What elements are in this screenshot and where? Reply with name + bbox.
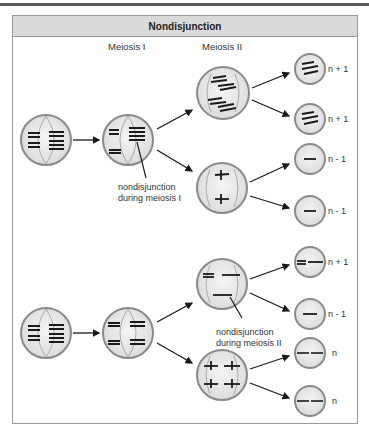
arrow xyxy=(250,293,289,311)
arrow xyxy=(157,110,192,129)
gamete-cell xyxy=(295,299,325,329)
parent-cell-row2 xyxy=(21,308,71,358)
annotation-nondisjunction-meiosis-i: nondisjunction during meiosis I xyxy=(118,182,181,204)
ploidy-label: n - 1 xyxy=(328,206,346,216)
gamete-cell xyxy=(295,338,325,368)
arrow xyxy=(157,303,192,322)
annotation-nondisjunction-meiosis-ii: nondisjunction during meiosis II xyxy=(216,327,282,349)
gamete-cell xyxy=(295,104,325,134)
gamete-cell xyxy=(295,54,325,84)
meiosis1-cell-row1 xyxy=(103,115,153,178)
ploidy-label: n + 1 xyxy=(328,64,348,74)
gamete-cell xyxy=(295,386,325,416)
gamete-cell xyxy=(295,144,325,174)
nondisjunction-diagram xyxy=(0,0,369,435)
ploidy-label: n - 1 xyxy=(328,309,346,319)
stage-label-meiosis-i: Meiosis I xyxy=(108,41,145,52)
parent-cell-row1 xyxy=(21,115,71,165)
ploidy-label: n + 1 xyxy=(328,114,348,124)
ploidy-label: n - 1 xyxy=(328,154,346,164)
arrow xyxy=(250,164,289,182)
arrow xyxy=(252,100,289,116)
meiosis1-cell-row2 xyxy=(103,308,153,358)
arrow xyxy=(250,356,289,369)
gamete-cell xyxy=(295,247,325,277)
meiosis2-cell-upper-row2 xyxy=(197,259,247,318)
meiosis2-cell-lower-row1 xyxy=(197,163,247,213)
stage-label-meiosis-ii: Meiosis II xyxy=(202,41,242,52)
arrow xyxy=(157,150,192,171)
ploidy-label: n xyxy=(332,396,337,406)
gamete-cell xyxy=(295,196,325,226)
arrow xyxy=(157,343,192,363)
ploidy-label: n xyxy=(332,348,337,358)
arrow xyxy=(252,73,289,88)
arrow xyxy=(250,383,289,398)
meiosis2-cell-lower-row2 xyxy=(197,350,247,400)
ploidy-label: n + 1 xyxy=(328,257,348,267)
arrow xyxy=(250,196,289,208)
arrow xyxy=(250,265,289,279)
meiosis2-cell-upper-row1 xyxy=(197,67,249,119)
